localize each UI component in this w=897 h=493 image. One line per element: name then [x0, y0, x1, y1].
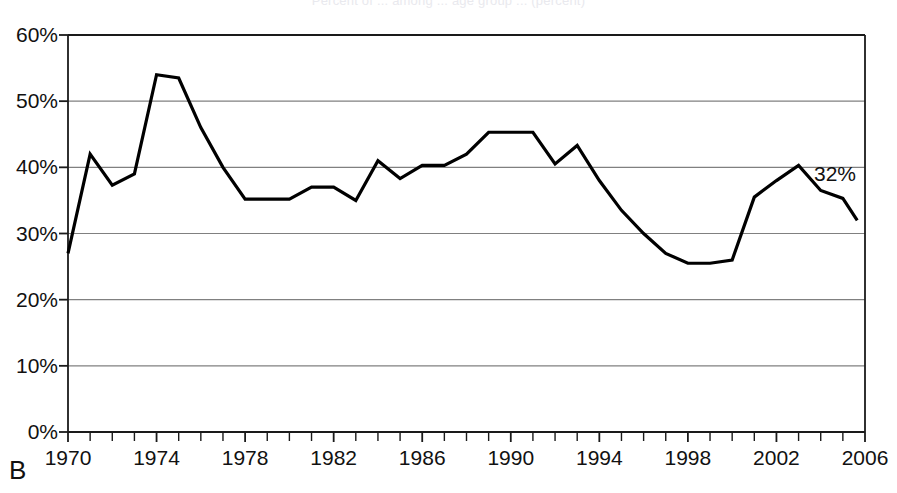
- x-axis-label-group: 1970197419781982198619901994199820022006: [0, 0, 897, 493]
- x-axis-label-1998: 1998: [665, 447, 712, 468]
- x-axis-label-2002: 2002: [753, 447, 800, 468]
- chart-figure: Percent of ... among ... age group ... (…: [0, 0, 897, 493]
- x-axis-label-1978: 1978: [222, 447, 269, 468]
- x-axis-label-1986: 1986: [399, 447, 446, 468]
- x-axis-label-1970: 1970: [45, 447, 92, 468]
- x-axis-label-1990: 1990: [487, 447, 534, 468]
- x-axis-label-2006: 2006: [842, 447, 889, 468]
- x-axis-label-1994: 1994: [576, 447, 623, 468]
- x-axis-label-1982: 1982: [310, 447, 357, 468]
- x-axis-label-1974: 1974: [133, 447, 180, 468]
- panel-label: B: [9, 457, 26, 483]
- endpoint-value-annotation: 32%: [814, 163, 856, 184]
